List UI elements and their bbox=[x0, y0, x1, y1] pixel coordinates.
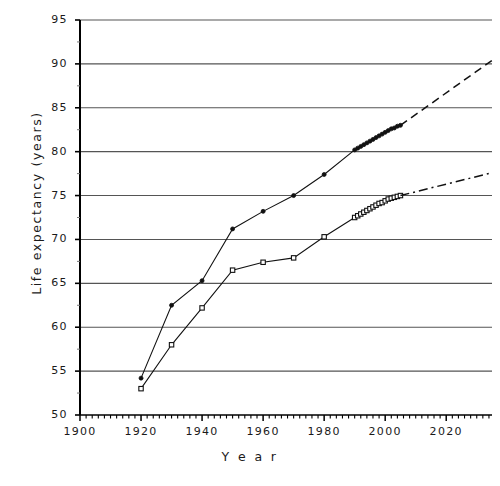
data-point-open-square bbox=[322, 235, 326, 239]
y-tick-label: 65 bbox=[24, 276, 68, 289]
data-point-filled bbox=[200, 279, 204, 283]
data-point-filled bbox=[261, 209, 265, 213]
x-tick-label: 1980 bbox=[294, 425, 354, 438]
extrapolation-upper-extrapolation bbox=[400, 60, 492, 125]
series-line-upper-series bbox=[141, 125, 400, 378]
y-tick-label: 85 bbox=[24, 101, 68, 114]
x-tick-label: 2000 bbox=[355, 425, 415, 438]
data-point-filled bbox=[170, 303, 174, 307]
y-tick-label: 75 bbox=[24, 189, 68, 202]
data-point-open-square bbox=[200, 306, 204, 310]
y-tick-label: 55 bbox=[24, 364, 68, 377]
data-point-open-square bbox=[139, 386, 143, 390]
life-expectancy-chart: Life expectancy (years) Y e a r 95908580… bbox=[0, 0, 500, 486]
data-point-filled bbox=[322, 172, 326, 176]
data-point-open-square bbox=[230, 268, 234, 272]
x-tick-label: 1900 bbox=[50, 425, 110, 438]
data-point-filled bbox=[139, 376, 143, 380]
y-tick-label: 60 bbox=[24, 320, 68, 333]
y-tick-label: 80 bbox=[24, 145, 68, 158]
extrapolation-lower-extrapolation bbox=[400, 173, 492, 196]
data-point-open-square bbox=[261, 260, 265, 264]
x-tick-label: 1940 bbox=[172, 425, 232, 438]
x-tick-label: 1920 bbox=[111, 425, 171, 438]
y-tick-label: 95 bbox=[24, 13, 68, 26]
x-tick-label: 2020 bbox=[416, 425, 476, 438]
data-point-filled bbox=[292, 194, 296, 198]
y-tick-label: 50 bbox=[24, 408, 68, 421]
y-tick-label: 90 bbox=[24, 57, 68, 70]
data-point-filled bbox=[231, 227, 235, 231]
x-tick-label: 1960 bbox=[233, 425, 293, 438]
data-point-open-square bbox=[169, 343, 173, 347]
y-tick-label: 70 bbox=[24, 232, 68, 245]
plot-area bbox=[0, 0, 500, 486]
data-point-open-square bbox=[291, 256, 295, 260]
series-line-lower-series bbox=[141, 196, 400, 389]
